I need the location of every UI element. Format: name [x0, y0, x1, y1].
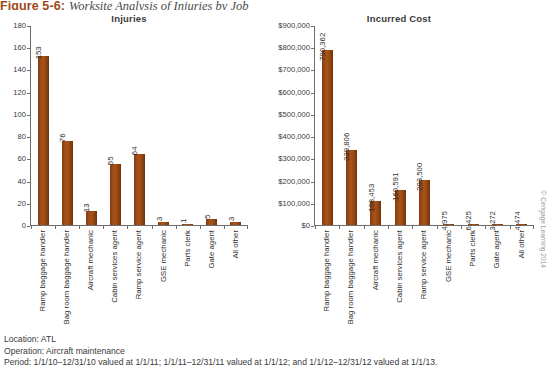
- bar[interactable]: 13: [86, 211, 97, 225]
- bar-series-injuries: 153761355643153: [31, 26, 248, 225]
- y-tick-mark: [27, 48, 30, 49]
- bar[interactable]: 4,474: [516, 224, 527, 225]
- bar[interactable]: 4,975: [443, 224, 454, 225]
- plot-area-incurred-cost: 790,362339,806108,453160,591203,5004,975…: [314, 26, 534, 226]
- bar-value-label: 3: [228, 217, 236, 221]
- bar-value-label: 55: [108, 157, 116, 166]
- bar-value-label: 76: [59, 134, 67, 143]
- x-label-cell: All other: [224, 226, 248, 326]
- bar-cell: 4,474: [510, 26, 534, 225]
- y-tick-label: $800,000: [278, 44, 314, 52]
- x-category-label: Cabin services agent: [396, 230, 404, 303]
- footnote-period: Period: 1/1/10–12/31/10 valued at 1/1/11…: [4, 357, 532, 369]
- bar-cell: 4,975: [437, 26, 461, 225]
- figure-title: Worksite Analysis of Injuries by Job: [69, 0, 249, 10]
- x-label-cell: Ramp service agent: [412, 226, 436, 326]
- x-label-cell: Ramp baggage handler: [315, 226, 339, 326]
- y-tick-mark: [27, 137, 30, 138]
- y-tick-mark: [27, 182, 30, 183]
- y-tick-mark: [311, 115, 314, 116]
- bar-cell: 160,591: [388, 26, 412, 225]
- y-tick-mark: [27, 226, 30, 227]
- bar-value-label: 203,500: [417, 163, 425, 191]
- figure-caption: Figure 5-6:Worksite Analysis of Injuries…: [0, 0, 249, 10]
- x-label-cell: GSE mechanic: [152, 226, 176, 326]
- y-tick-mark: [27, 204, 30, 205]
- plot-area-injuries: 153761355643153 020406080100120140160180: [30, 26, 248, 226]
- bar[interactable]: 3: [230, 222, 241, 225]
- bar[interactable]: 3,272: [492, 224, 503, 225]
- copyright-credit: © Cengage Learning 2014: [540, 191, 547, 268]
- x-category-label: Gate agent: [494, 230, 502, 269]
- y-tick-label: $700,000: [278, 67, 314, 75]
- y-tick-mark: [311, 182, 314, 183]
- bar-cell: 339,806: [339, 26, 363, 225]
- x-label-cell: GSE mechanic: [437, 226, 461, 326]
- x-category-label: Parts clerk: [184, 230, 192, 267]
- x-label-cell: Cabin services agent: [388, 226, 412, 326]
- y-tick-mark: [311, 204, 314, 205]
- x-category-label: Ramp baggage handler: [39, 230, 47, 312]
- bar-value-label: 13: [83, 203, 91, 212]
- bar[interactable]: 76: [62, 141, 73, 225]
- x-label-cell: Bag room baggage handler: [339, 226, 363, 326]
- y-tick-label: $500,000: [278, 111, 314, 119]
- x-label-cell: Gate agent: [485, 226, 509, 326]
- bar[interactable]: 6,425: [468, 224, 479, 225]
- figure-number: Figure 5-6:: [0, 0, 65, 10]
- bar[interactable]: 64: [134, 154, 145, 225]
- y-tick-mark: [27, 159, 30, 160]
- bar[interactable]: 160,591: [395, 190, 406, 226]
- bar[interactable]: 3: [158, 222, 169, 225]
- bar-cell: 203,500: [412, 26, 436, 225]
- x-label-cell: Parts clerk: [176, 226, 200, 326]
- bar[interactable]: 5: [206, 219, 217, 225]
- bar[interactable]: 55: [110, 164, 121, 225]
- x-category-label: Bag room baggage handler: [348, 230, 356, 325]
- chart-title-injuries: Injuries: [4, 12, 254, 26]
- y-tick-label: $300,000: [278, 156, 314, 164]
- y-tick-mark: [311, 70, 314, 71]
- y-tick-label: $400,000: [278, 133, 314, 141]
- x-category-labels-injuries: Ramp baggage handlerBag room baggage han…: [31, 226, 248, 326]
- x-label-cell: Bag room baggage handler: [55, 226, 79, 326]
- y-tick-label: $900,000: [278, 22, 314, 30]
- bar-cell: 76: [55, 26, 79, 225]
- y-tick-mark: [311, 159, 314, 160]
- x-category-label: All other: [232, 230, 240, 259]
- footnote-location: Location: ATL: [4, 334, 532, 346]
- x-category-label: Aircraft mechanic: [372, 230, 380, 290]
- bar-cell: 790,362: [315, 26, 339, 225]
- bar-value-label: 1: [180, 219, 188, 223]
- bar-value-label: 153: [35, 46, 43, 59]
- bar[interactable]: 1: [182, 224, 193, 225]
- x-category-label: Gate agent: [208, 230, 216, 269]
- x-label-cell: Aircraft mechanic: [364, 226, 388, 326]
- bar-cell: 64: [127, 26, 151, 225]
- bar[interactable]: 203,500: [419, 180, 430, 225]
- x-category-label: Ramp service agent: [421, 230, 429, 299]
- bar[interactable]: 790,362: [322, 50, 333, 225]
- bar-cell: 3: [152, 26, 176, 225]
- bar-value-label: 108,453: [368, 184, 376, 212]
- bar-series-incurred-cost: 790,362339,806108,453160,591203,5004,975…: [315, 26, 534, 225]
- bar-cell: 1: [176, 26, 200, 225]
- bar-cell: 6,425: [461, 26, 485, 225]
- y-tick-mark: [311, 137, 314, 138]
- bar[interactable]: 153: [38, 56, 49, 225]
- y-tick-label: $200,000: [278, 178, 314, 186]
- y-tick-mark: [27, 115, 30, 116]
- bar[interactable]: 339,806: [346, 150, 357, 225]
- bar-value-label: 5: [204, 214, 212, 218]
- y-tick-label: $100,000: [278, 200, 314, 208]
- x-category-labels-incurred-cost: Ramp baggage handlerBag room baggage han…: [315, 226, 534, 326]
- bar-cell: 5: [200, 26, 224, 225]
- bar-cell: 153: [31, 26, 55, 225]
- x-label-cell: Gate agent: [200, 226, 224, 326]
- x-label-cell: Ramp service agent: [127, 226, 151, 326]
- y-tick-mark: [311, 226, 314, 227]
- x-category-label: All other: [518, 230, 526, 259]
- x-category-label: Aircraft mechanic: [87, 230, 95, 290]
- bar[interactable]: 108,453: [370, 201, 381, 225]
- x-label-cell: All other: [510, 226, 534, 326]
